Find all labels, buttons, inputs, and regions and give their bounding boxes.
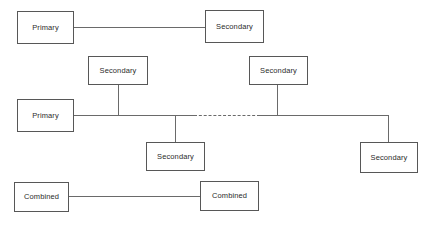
edge-primary-top-to-secondary-top	[74, 27, 205, 28]
node-combined-right[interactable]: Combined	[200, 181, 259, 211]
edge-riser-mid-left	[118, 85, 119, 116]
node-label: Primary	[32, 112, 59, 120]
edge-drop-right-secondary	[388, 115, 389, 143]
node-secondary-mid-left[interactable]: Secondary	[88, 56, 148, 85]
node-label: Secondary	[371, 154, 408, 162]
node-secondary-top[interactable]: Secondary	[205, 10, 264, 43]
edge-combined-to-combined	[69, 196, 200, 197]
node-secondary-mid-right[interactable]: Secondary	[249, 56, 308, 85]
edge-trunk-dashed	[194, 115, 260, 116]
node-secondary-lower[interactable]: Secondary	[146, 142, 205, 171]
node-label: Primary	[32, 24, 59, 32]
node-label: Secondary	[216, 23, 253, 31]
node-label: Combined	[212, 192, 247, 200]
node-label: Secondary	[260, 67, 297, 75]
node-label: Secondary	[157, 153, 194, 161]
edge-trunk-right	[259, 115, 389, 116]
edge-trunk-left	[74, 115, 195, 116]
node-primary-middle[interactable]: Primary	[17, 99, 74, 132]
node-primary-top[interactable]: Primary	[17, 11, 74, 44]
diagram-canvas: Primary Secondary Secondary Secondary Pr…	[0, 0, 432, 225]
node-secondary-right[interactable]: Secondary	[360, 142, 418, 173]
edge-riser-mid-right	[277, 85, 278, 116]
node-label: Secondary	[100, 67, 137, 75]
edge-drop-lower-secondary	[175, 115, 176, 143]
node-label: Combined	[24, 193, 59, 201]
node-combined-left[interactable]: Combined	[14, 182, 69, 212]
